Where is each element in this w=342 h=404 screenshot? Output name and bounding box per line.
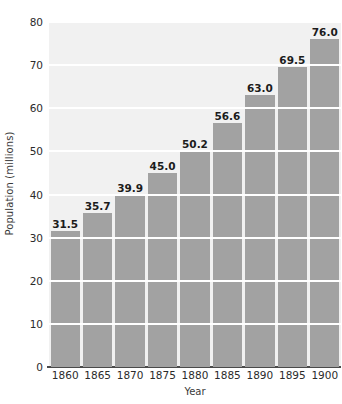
bar: [51, 22, 80, 367]
bar: [245, 22, 274, 367]
x-axis-tick: 1900: [309, 369, 341, 381]
y-axis-tick: 30: [30, 232, 43, 244]
y-axis-tick: 80: [30, 16, 43, 28]
y-axis-tick-labels: 01020304050607080: [18, 0, 47, 404]
bar-rect: [83, 213, 112, 367]
y-axis-title-label: Population (millions): [4, 131, 15, 235]
bar-rect: [148, 173, 177, 367]
bar-rect: [310, 39, 339, 367]
bar-rect: [213, 123, 242, 367]
x-axis-tick: 1895: [276, 369, 308, 381]
y-axis-tick: 20: [30, 275, 43, 287]
bar-rect: [278, 67, 307, 367]
x-axis-tick: 1885: [211, 369, 243, 381]
bar: [115, 22, 144, 367]
y-axis-tick: 70: [30, 59, 43, 71]
bar-rect: [245, 95, 274, 367]
bar-rect: [51, 231, 80, 367]
x-axis-tick: 1875: [146, 369, 178, 381]
bar: [148, 22, 177, 367]
bar: [310, 22, 339, 367]
bar-chart-figure: Population (millions) 01020304050607080 …: [0, 0, 342, 404]
bars-layer: [49, 22, 341, 367]
plot-area: 31.535.739.945.050.256.663.069.576.0: [49, 22, 341, 367]
bar-rect: [180, 151, 209, 367]
x-axis-tick-labels: 186018651870187518801885189018951900: [49, 369, 341, 385]
bar-rect: [115, 195, 144, 367]
x-axis-tick: 1870: [114, 369, 146, 381]
y-axis-title: Population (millions): [0, 0, 18, 367]
bar: [180, 22, 209, 367]
y-axis-tick: 50: [30, 145, 43, 157]
bar: [213, 22, 242, 367]
bar: [278, 22, 307, 367]
y-axis-tick: 60: [30, 102, 43, 114]
y-axis-tick: 40: [30, 189, 43, 201]
y-axis-tick: 0: [36, 361, 43, 373]
x-axis-title: Year: [49, 386, 341, 397]
x-axis-tick: 1880: [179, 369, 211, 381]
x-axis-tick: 1860: [49, 369, 81, 381]
y-axis-tick: 10: [30, 318, 43, 330]
bar: [83, 22, 112, 367]
x-axis-tick: 1865: [81, 369, 113, 381]
x-axis-tick: 1890: [244, 369, 276, 381]
